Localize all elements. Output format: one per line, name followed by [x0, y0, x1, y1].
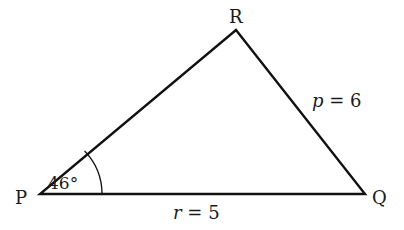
side-var-p: p: [312, 90, 324, 111]
side-label-p: p = 6: [312, 90, 362, 111]
angle-label-p: 46°: [48, 173, 78, 193]
side-label-r: r = 5: [173, 202, 220, 223]
angle-arc-p: [85, 151, 102, 194]
triangle-pqr: [40, 30, 365, 194]
vertex-label-p: P: [15, 187, 27, 208]
side-value-r: = 5: [182, 202, 220, 223]
triangle-diagram: P Q R 46° p = 6 r = 5: [0, 0, 404, 230]
vertex-label-q: Q: [372, 187, 387, 208]
vertex-label-r: R: [229, 6, 243, 27]
side-value-p: = 6: [324, 90, 362, 111]
